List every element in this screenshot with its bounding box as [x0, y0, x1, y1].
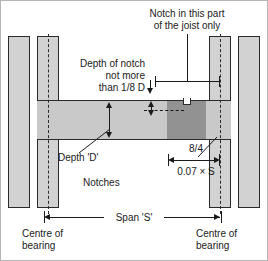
- notch-zone-leader-line: [187, 34, 188, 81]
- notch-zone-fraction-label: 8/4: [166, 143, 226, 155]
- notch-zone-width-tick-left: [168, 154, 169, 166]
- notch-zone-extent-tick-right: [219, 76, 220, 87]
- notch-zone-width-shaft: [172, 160, 217, 161]
- wall-outer-left: [8, 36, 30, 208]
- notch-zone-extent-tick-left: [155, 76, 156, 87]
- notch-zone-note-line2: of the joist only: [128, 20, 246, 32]
- diagram-canvas: Notch in this part of the joist only Dep…: [0, 0, 268, 261]
- notch-zone-width-tick-right: [219, 154, 220, 166]
- notches-label: Notches: [83, 177, 153, 189]
- notch-depth-note-line2: not more: [50, 70, 145, 82]
- notch-zone-formula-label: 0.07 × S: [162, 166, 230, 178]
- span-label: Span 'S': [104, 212, 164, 224]
- notch-depth-pointer-arrowhead: [147, 88, 153, 94]
- bearing-left-label-line2: bearing: [22, 240, 92, 252]
- span-tick-left: [44, 211, 45, 223]
- notch-zone-extent-bar: [155, 81, 220, 82]
- bearing-left-label-line1: Centre of: [22, 228, 92, 240]
- notch-depth-dim-arrow-down: [148, 110, 154, 116]
- joist-depth-label: Depth 'D': [58, 152, 128, 164]
- joist-depth-leader: [78, 128, 114, 154]
- span-tick-right: [221, 211, 222, 223]
- bearing-right-label-line1: Centre of: [196, 228, 266, 240]
- notch-depth-note-line1: Depth of notch: [50, 58, 145, 70]
- joist-notch-zone: [167, 101, 206, 139]
- joist-top-edge: [37, 100, 231, 101]
- centre-line-left-bearing: [48, 34, 49, 214]
- centre-line-right-bearing: [220, 34, 221, 214]
- notch-cutout: [183, 98, 191, 105]
- span-arrow-right: [214, 214, 220, 220]
- notch-zone-note-line1: Notch in this part: [128, 8, 246, 20]
- wall-outer-right: [238, 36, 260, 208]
- bearing-right-label-line2: bearing: [196, 240, 266, 252]
- notch-depth-note-line3: than 1/8 D: [50, 82, 145, 94]
